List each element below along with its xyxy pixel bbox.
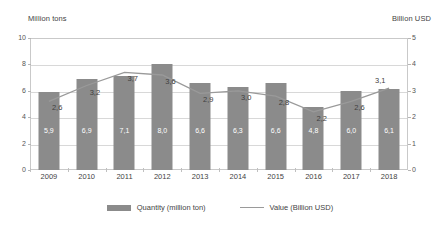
x-tick-mark [30,168,31,172]
line-value-label: 2,9 [203,95,213,104]
line-value-label: 2,6 [52,103,62,112]
bar-swatch-icon [107,205,131,211]
right-axis-title: Billion USD [392,14,431,23]
x-tick-mark [181,168,182,172]
x-tick-mark [143,168,144,172]
line-swatch-icon [240,207,264,208]
tick-mark [408,144,411,145]
x-tick-mark [68,168,69,172]
x-axis-label: 2015 [267,172,284,181]
left-tick-label: 4 [10,113,26,120]
x-axis-label: 2016 [305,172,322,181]
tick-mark [408,38,411,39]
x-tick-mark [295,168,296,172]
x-axis-label: 2014 [230,172,247,181]
x-tick-mark [332,168,333,172]
left-tick-label: 6 [10,87,26,94]
x-tick-mark [106,168,107,172]
right-tick-label: 4 [412,60,428,67]
line-value-label: 2,8 [279,98,289,107]
dual-axis-chart: Million tons Billion USD 1086420 543210 … [0,0,440,233]
tick-mark [408,64,411,65]
x-axis-label: 2013 [192,172,209,181]
left-axis-ticks: 1086420 [8,38,26,170]
tick-mark [408,170,411,171]
x-tick-mark [257,168,258,172]
right-tick-label: 0 [412,166,428,173]
tick-mark [408,91,411,92]
chart-legend: Quantity (million ton) Value (Billion US… [0,203,440,212]
right-axis-tickmarks [408,38,412,170]
x-tick-mark [370,168,371,172]
left-tick-label: 10 [10,34,26,41]
line-value-label: 3,2 [90,88,100,97]
right-tick-label: 3 [412,87,428,94]
x-axis-labels: 2009201020112012201320142015201620172018 [30,172,408,186]
right-axis-ticks: 543210 [412,38,430,170]
line-value-label: 3,7 [128,74,138,83]
right-tick-label: 2 [412,113,428,120]
line-value-label: 3,6 [165,77,175,86]
x-axis-label: 2017 [343,172,360,181]
right-tick-label: 5 [412,34,428,41]
legend-item-quantity: Quantity (million ton) [107,203,206,212]
left-tick-label: 2 [10,140,26,147]
legend-label-quantity: Quantity (million ton) [137,203,206,212]
right-tick-label: 1 [412,140,428,147]
x-axis-label: 2011 [116,172,132,181]
line-value-label: 2,2 [317,114,327,123]
legend-item-value: Value (Billion USD) [240,203,334,212]
line-point-labels: 2,63,23,73,62,93,02,82,22,63,1 [30,38,408,170]
legend-label-value: Value (Billion USD) [270,203,334,212]
left-tick-label: 8 [10,60,26,67]
tick-mark [408,117,411,118]
x-axis-label: 2010 [78,172,95,181]
x-tick-mark [219,168,220,172]
x-axis-label: 2009 [41,172,58,181]
line-value-label: 3,0 [241,93,251,102]
left-axis-title: Million tons [28,14,67,23]
x-axis-label: 2012 [154,172,171,181]
left-tick-label: 0 [10,166,26,173]
x-axis-label: 2018 [381,172,398,181]
line-value-label: 2,6 [354,103,364,112]
line-value-label: 3,1 [375,76,385,85]
